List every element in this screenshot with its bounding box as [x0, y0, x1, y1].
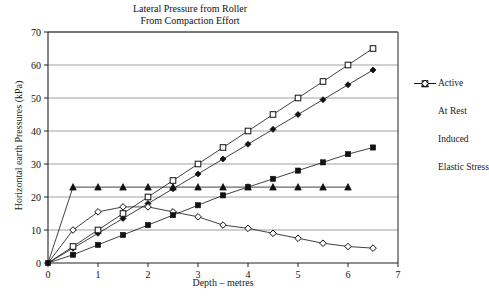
chart-legend: ActiveAt RestInducedElastic Stress [412, 78, 489, 190]
data-point-induced [370, 46, 376, 52]
data-point-induced [70, 244, 76, 250]
y-axis-tick-label: 0 [36, 258, 41, 269]
legend-label: Active [438, 78, 463, 89]
data-point-compaction [145, 222, 150, 227]
data-point-elastic-stress [195, 214, 202, 221]
y-axis-tick-label: 20 [31, 192, 41, 203]
y-axis-tick-label: 40 [31, 126, 41, 137]
data-point-active [370, 67, 376, 73]
y-axis-tick-label: 60 [31, 60, 41, 71]
data-point-elastic-stress [120, 204, 127, 211]
data-point-elastic-stress [345, 243, 352, 250]
data-point-elastic-stress [370, 245, 377, 252]
data-point-active [195, 171, 201, 177]
legend-item-at-rest[interactable]: At Rest [412, 106, 489, 118]
data-point-induced [120, 211, 126, 217]
x-axis-tick-label: 4 [246, 269, 251, 280]
data-point-active [245, 141, 251, 147]
x-axis-tick-label: 6 [346, 269, 351, 280]
data-point-compaction [70, 252, 75, 257]
data-point-compaction [95, 242, 100, 247]
data-point-origin [45, 260, 50, 265]
data-point-active [345, 82, 351, 88]
data-point-active [220, 156, 226, 162]
legend-marker-open-diamond-icon [412, 163, 438, 174]
data-point-compaction [220, 193, 225, 198]
y-axis-tick-label: 30 [31, 159, 41, 170]
chart-container: Lateral Pressure from Roller From Compac… [0, 0, 489, 297]
data-point-induced [220, 145, 226, 151]
data-point-compaction [245, 185, 250, 190]
series-line-at-rest [48, 187, 348, 263]
legend-item-elastic-stress[interactable]: Elastic Stress [412, 162, 489, 174]
data-point-induced [145, 194, 151, 200]
data-point-elastic-stress [270, 230, 277, 237]
data-point-induced [195, 161, 201, 167]
data-point-induced [270, 112, 276, 118]
x-axis-tick-label: 1 [96, 269, 101, 280]
x-axis-tick-label: 5 [296, 269, 301, 280]
data-point-elastic-stress [220, 222, 227, 229]
legend-marker-open-square-icon [412, 135, 438, 146]
x-axis-tick-label: 0 [46, 269, 51, 280]
x-axis-tick-label: 7 [396, 269, 401, 280]
data-point-active [320, 97, 326, 103]
data-point-induced [320, 79, 326, 85]
data-point-elastic-stress [295, 235, 302, 242]
data-point-elastic-stress [70, 227, 77, 234]
data-point-induced [170, 178, 176, 184]
data-point-elastic-stress [95, 209, 102, 216]
data-point-compaction [170, 213, 175, 218]
data-point-compaction [120, 232, 125, 237]
data-point-compaction [270, 176, 275, 181]
legend-label: Elastic Stress [438, 162, 489, 173]
data-point-induced [295, 95, 301, 101]
data-point-compaction [320, 160, 325, 165]
legend-label: Induced [438, 134, 469, 145]
data-point-elastic-stress [320, 240, 327, 247]
x-axis-tick-label: 2 [146, 269, 151, 280]
y-axis-tick-label: 10 [31, 225, 41, 236]
data-point-compaction [370, 145, 375, 150]
data-point-active [270, 126, 276, 132]
legend-marker-filled-triangle-icon [412, 107, 438, 118]
legend-label: At Rest [438, 106, 467, 117]
data-point-induced [95, 227, 101, 233]
data-point-induced [345, 62, 351, 68]
y-axis-tick-label: 70 [31, 27, 41, 38]
data-point-compaction [295, 168, 300, 173]
data-point-induced [245, 128, 251, 134]
legend-item-induced[interactable]: Induced [412, 134, 489, 146]
data-point-elastic-stress [245, 225, 252, 232]
x-axis-tick-label: 3 [196, 269, 201, 280]
data-point-compaction [345, 152, 350, 157]
y-axis-tick-label: 50 [31, 93, 41, 104]
data-point-active [295, 112, 301, 118]
data-point-compaction [195, 203, 200, 208]
